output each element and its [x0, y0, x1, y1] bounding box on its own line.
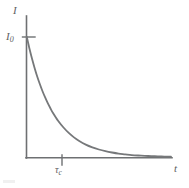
tau-subscript: c — [59, 168, 62, 177]
y-axis-label: I — [13, 5, 17, 16]
scan-artifact — [3, 180, 15, 183]
x-axis-label: t — [174, 163, 177, 174]
plot-canvas — [0, 0, 189, 188]
x-tick-label-tau-c: τc — [55, 165, 62, 176]
y-value-label-i0: I0 — [6, 31, 14, 44]
y-value-label-subscript: 0 — [10, 35, 14, 44]
decay-curve — [27, 37, 171, 157]
exponential-decay-figure: I I0 τc t — [0, 0, 189, 188]
